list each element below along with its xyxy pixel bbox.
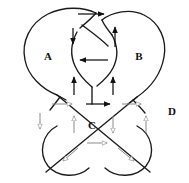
- strand-lowerright-under-gap: [133, 100, 145, 113]
- region-label-d: D: [168, 105, 176, 117]
- knot-strands: [24, 8, 165, 175]
- strand-bottom-left-loop: [42, 126, 89, 175]
- orientation-arrows-solid: [73, 14, 115, 104]
- strand-lens-top-right-tail: [102, 20, 112, 35]
- strand-lower-diag-ne-sw: [46, 97, 137, 172]
- strand-lens-top-left-tail: [80, 13, 96, 28]
- arrow-bottom-right-diag-hollow: [118, 148, 134, 161]
- region-label-a: A: [44, 50, 52, 62]
- strand-top-crossing-over: [82, 25, 108, 46]
- strand-left-lobe-outer: [24, 8, 96, 100]
- knot-diagram-svg: A B C D: [0, 0, 189, 183]
- region-label-c: C: [88, 119, 96, 131]
- region-label-b: B: [135, 50, 143, 62]
- knot-diagram-container: A B C D: [0, 0, 189, 183]
- strand-right-lobe-outer: [102, 11, 165, 104]
- strand-lower-diag-nw-se: [57, 95, 150, 172]
- strand-bottom-right-loop: [105, 126, 152, 175]
- arrow-bottom-left-diag-hollow: [63, 148, 78, 161]
